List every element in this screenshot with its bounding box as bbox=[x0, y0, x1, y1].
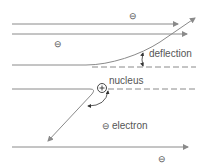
nucleus-label: nucleus bbox=[109, 76, 143, 86]
electron-symbol-1: ⊖ bbox=[129, 12, 137, 21]
scattering-diagram: ⊖ ⊖ ⊖ deflection nucleus ⊖ electron bbox=[0, 0, 204, 166]
electron-label: electron bbox=[112, 121, 148, 131]
deflection-label: deflection bbox=[149, 49, 192, 59]
electron-legend-symbol: ⊖ bbox=[102, 122, 110, 131]
diagram-graphics bbox=[0, 0, 204, 166]
scattering-angle-arc bbox=[88, 91, 108, 106]
electron-path-backscattered bbox=[12, 89, 94, 141]
deflection-angle-arc bbox=[142, 53, 143, 66]
electron-symbol-3: ⊖ bbox=[158, 155, 166, 164]
electron-symbol-2: ⊖ bbox=[54, 40, 62, 49]
